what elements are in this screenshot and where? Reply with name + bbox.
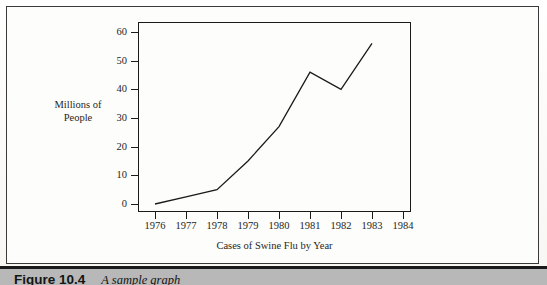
figure-caption-text: A sample graph xyxy=(101,273,180,285)
figure-page: Millions of People 60 50 40 30 20 10 0 1… xyxy=(0,0,547,285)
figure-caption: Figure 10.4A sample graph xyxy=(14,270,180,285)
x-axis-title: Cases of Swine Flu by Year xyxy=(138,240,411,251)
figure-caption-label: Figure 10.4 xyxy=(14,272,85,285)
line-chart: Millions of People 60 50 40 30 20 10 0 1… xyxy=(0,0,547,285)
figure-caption-strip: Figure 10.4A sample graph xyxy=(0,266,547,285)
